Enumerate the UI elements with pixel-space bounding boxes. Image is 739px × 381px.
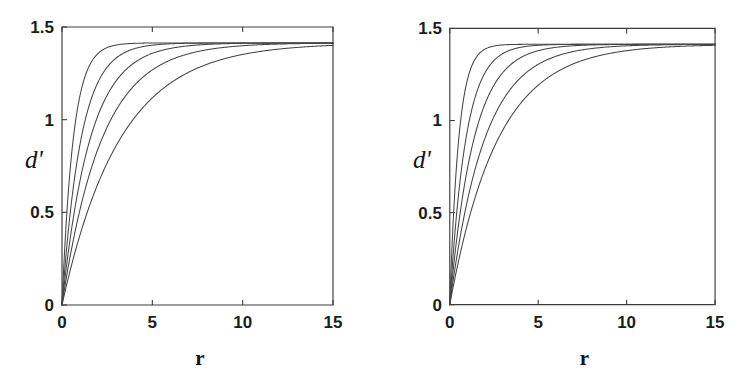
chart-svg-left: 00.511.5 051015 d' r [0, 0, 369, 381]
chart-curve [450, 44, 715, 304]
chart-panel-right: 00.511.5 051015 d' r [369, 0, 738, 381]
x-tick-label: 15 [706, 313, 725, 332]
y-axis-label-left: d' [25, 146, 44, 173]
x-tick-label: 10 [233, 313, 252, 332]
x-tick-label: 15 [324, 313, 343, 332]
chart-curve [62, 43, 333, 305]
chart-curve [62, 45, 333, 305]
curve-group-right [450, 44, 715, 304]
chart-curve [450, 45, 715, 304]
x-tick-label: 0 [57, 313, 66, 332]
x-tick-label: 10 [617, 313, 636, 332]
chart-curve [62, 43, 333, 305]
y-tick-label: 0.5 [418, 204, 442, 223]
chart-curve [450, 44, 715, 304]
chart-curve [62, 43, 333, 305]
x-axis-label-left: r [195, 346, 204, 370]
chart-panel-left: 00.511.5 051015 d' r [0, 0, 369, 381]
chart-curve [450, 44, 715, 304]
x-ticks-right [450, 28, 715, 304]
curve-group-left [62, 43, 333, 305]
figure-container: 00.511.5 051015 d' r 00.511.5 051015 d' … [0, 0, 739, 381]
chart-curve [62, 43, 333, 305]
y-tick-label: 1 [432, 112, 441, 131]
x-axis-label-right: r [580, 346, 589, 370]
y-tick-label: 1.5 [30, 18, 54, 37]
x-tick-label: 5 [148, 313, 157, 332]
y-tick-label: 0 [432, 296, 441, 315]
plot-frame-left [62, 27, 333, 305]
plot-frame-right [450, 28, 715, 304]
x-tick-label: 0 [445, 313, 454, 332]
y-tick-label: 1.5 [418, 19, 442, 38]
y-ticks-left [62, 27, 67, 305]
y-tick-label: 1 [45, 111, 54, 130]
x-tick-labels-left: 051015 [57, 313, 342, 332]
x-tick-labels-right: 051015 [445, 313, 724, 332]
y-axis-label-right: d' [413, 146, 431, 173]
chart-curve [450, 44, 715, 304]
y-tick-label: 0.5 [30, 203, 54, 222]
x-ticks-left [62, 27, 333, 305]
x-tick-label: 5 [533, 313, 542, 332]
y-tick-label: 0 [45, 296, 54, 315]
chart-svg-right: 00.511.5 051015 d' r [369, 0, 738, 381]
